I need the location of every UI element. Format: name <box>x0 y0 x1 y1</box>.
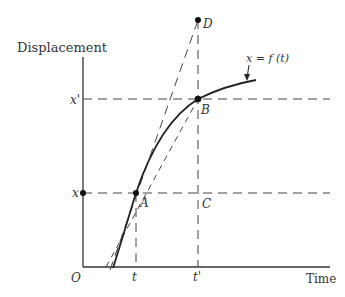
origin-label: O <box>71 271 81 285</box>
displacement-time-diagram: Displacement Time O x' x t t' A B C D x … <box>0 0 345 297</box>
point-A <box>133 190 139 196</box>
point-x-on-axis <box>80 190 86 196</box>
secant-line-AB <box>106 99 198 267</box>
tick-label-t: t <box>132 270 137 284</box>
y-axis-label: Displacement <box>17 40 108 55</box>
point-label-C: C <box>202 197 211 211</box>
tick-label-x: x <box>72 186 79 200</box>
point-B <box>195 96 202 103</box>
curve-x-f-t <box>113 80 256 268</box>
point-label-A: A <box>139 196 149 210</box>
arrow-head <box>244 74 250 81</box>
point-D <box>195 17 201 23</box>
curve-label: x = f (t) <box>246 52 289 65</box>
x-axis-label: Time <box>306 272 336 286</box>
tick-label-x-prime: x' <box>70 93 80 107</box>
point-label-D: D <box>202 17 213 31</box>
tick-label-t-prime: t' <box>193 270 201 284</box>
point-label-B: B <box>200 103 210 117</box>
